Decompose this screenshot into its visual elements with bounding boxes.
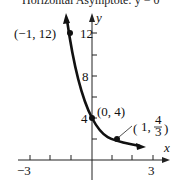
fraction-denominator: 3 (155, 124, 162, 139)
point-label-neg1-12: (−1, 12) (14, 26, 56, 41)
curve-end-arrow-icon (136, 143, 146, 150)
x-axis-arrow-icon (162, 157, 170, 163)
point-0-4 (89, 115, 95, 121)
point-label-0-4: (0, 4) (97, 104, 125, 119)
x-axis-label: x (163, 140, 170, 155)
y-axis-label: y (94, 10, 102, 25)
paren-close: ) (164, 121, 168, 136)
x-axis (18, 155, 170, 163)
y-tick-label-8: 8 (82, 69, 89, 84)
x-tick-label-3: 3 (148, 163, 155, 178)
paren-open: ( (133, 121, 137, 136)
y-axis-arrow-icon (89, 13, 95, 22)
point-label-leader (119, 126, 132, 137)
x-tick-label-neg3: −3 (17, 163, 31, 178)
function-curve (67, 20, 140, 146)
curve-start-arrow-icon (63, 13, 70, 24)
y-tick-label-4: 4 (81, 111, 88, 126)
point-label-1-4-3: ( 1, 4 3 ) (133, 112, 168, 139)
point-neg1-12 (67, 30, 73, 36)
point-label-1-prefix: 1, (141, 119, 151, 134)
exponential-graph: y x −3 3 12 8 4 (−1, 12) (0, 4) ( 1, 4 3… (0, 0, 183, 186)
y-tick-label-12: 12 (80, 26, 93, 41)
